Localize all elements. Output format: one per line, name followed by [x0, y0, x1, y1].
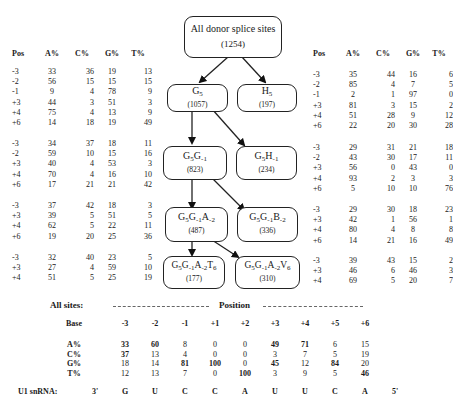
table-cell: 3	[260, 350, 290, 360]
table-cell: 25	[100, 232, 124, 242]
table-row: +3404533	[12, 159, 152, 169]
table-cell: 53	[100, 159, 124, 169]
table-cell: 15	[124, 77, 152, 87]
table-cell: C	[170, 387, 200, 396]
table-row: +4754139	[12, 108, 152, 118]
table-cell: 16	[401, 70, 425, 80]
table-row: +47041610	[12, 170, 152, 180]
table-cell: 5	[64, 221, 100, 231]
table-cell: -1	[170, 319, 200, 333]
table-cell: 5	[425, 80, 453, 90]
node-g5g-1: G5G-1 (823)	[163, 146, 227, 180]
table-cell: 5	[341, 184, 365, 194]
table-cell: 51	[100, 98, 124, 108]
table-cell: 20	[350, 359, 380, 369]
node-count: (310)	[236, 274, 299, 284]
table-cell: +3	[313, 163, 341, 173]
table-cell: -3	[313, 205, 341, 215]
table-cell: 15	[401, 256, 425, 266]
right-table-h5: -33544166 -285475 -121970 +3813152 +4512…	[313, 70, 453, 131]
table-cell: 100	[200, 359, 230, 369]
table-row: +4695207	[313, 276, 453, 286]
table-cell: 7	[401, 80, 425, 90]
table-cell: 3	[425, 174, 453, 184]
table-cell: 29	[341, 143, 365, 153]
table-cell: 2	[341, 90, 365, 100]
right-table-g5h-1: -329312118 -243301711 +3560430 +493233 +…	[313, 143, 453, 194]
table-row: -243301711	[313, 153, 453, 163]
table-cell: 5	[124, 253, 152, 263]
table-row: -259101516	[12, 149, 152, 159]
table-cell: +4	[313, 174, 341, 184]
table-cell: 2	[425, 101, 453, 111]
table-cell: 19	[100, 67, 124, 77]
table-cell: 16	[100, 170, 124, 180]
table-cell: 19	[350, 350, 380, 360]
table-cell: 18	[64, 118, 100, 128]
table-cell: 85	[341, 80, 365, 90]
node-g5h-1: G5H-1 (234)	[236, 146, 297, 180]
header-t: T%	[425, 49, 453, 59]
table-cell: 6	[365, 266, 401, 276]
table-cell: 33	[110, 340, 140, 350]
table-cell: 42	[341, 215, 365, 225]
table-cell: 28	[365, 111, 401, 121]
node-all-donor-sites: All donor splice sites (1254)	[184, 16, 282, 58]
table-cell: 20	[365, 121, 401, 131]
table-cell: 69	[341, 276, 365, 286]
table-cell: 11	[124, 139, 152, 149]
position-label: Position	[219, 300, 250, 310]
table-cell: -3	[12, 201, 40, 211]
table-cell: 18	[110, 359, 140, 369]
table-cell: 43	[365, 256, 401, 266]
table-cell: 3	[425, 266, 453, 276]
node-label: H5	[238, 85, 296, 100]
u1-snrna-row: U1 snRNA: 3' G U C C A U U C A 5'	[18, 387, 410, 396]
table-cell: 3	[64, 98, 100, 108]
table-row: +3466463	[313, 266, 453, 276]
table-cell: T%	[38, 369, 110, 379]
table-cell: 13	[140, 369, 170, 379]
table-row: -121970	[313, 90, 453, 100]
node-count: (1254)	[185, 39, 281, 49]
table-cell: 76	[425, 184, 453, 194]
all-sites-title: All sites:	[50, 300, 83, 310]
table-cell: 17	[40, 180, 64, 190]
table-cell: 0	[365, 163, 401, 173]
table-row: G% 18 14 81 100 0 45 12 84 20	[38, 359, 380, 369]
left-table-header: Pos A% C% G% T%	[12, 49, 152, 59]
table-cell: 22	[100, 221, 124, 231]
table-cell: +4	[12, 108, 40, 118]
table-row: +3395515	[12, 211, 152, 221]
table-cell: 37	[40, 201, 64, 211]
left-table-g5: -333361913 -256151515 -194789 +3443513 +…	[12, 67, 152, 128]
table-cell: U	[260, 387, 290, 396]
table-cell: 7	[425, 276, 453, 286]
table-cell: 40	[64, 253, 100, 263]
table-row: -329301823	[313, 205, 453, 215]
table-cell: 0	[425, 90, 453, 100]
table-row: -256151515	[12, 77, 152, 87]
table-cell: 49	[425, 236, 453, 246]
table-cell: 49	[260, 340, 290, 350]
table-cell: 14	[40, 118, 64, 128]
table-cell: 97	[401, 90, 425, 100]
table-cell: 2	[425, 256, 453, 266]
table-cell: 39	[40, 211, 64, 221]
table-cell: A	[230, 387, 260, 396]
table-cell: +3	[12, 263, 40, 273]
node-label: G5	[168, 85, 227, 100]
table-row: +45152519	[12, 273, 152, 283]
table-cell: +4	[313, 111, 341, 121]
table-cell: 4	[64, 108, 100, 118]
table-cell: 30	[401, 121, 425, 131]
header-g: G%	[401, 49, 425, 59]
table-cell: 22	[341, 121, 365, 131]
table-cell: 3	[124, 98, 152, 108]
table-cell: 13	[100, 108, 124, 118]
table-cell: 31	[365, 143, 401, 153]
table-cell: 37	[64, 139, 100, 149]
node-count: (197)	[238, 100, 296, 110]
table-row: -285475	[313, 80, 453, 90]
table-cell: +1	[200, 319, 230, 333]
